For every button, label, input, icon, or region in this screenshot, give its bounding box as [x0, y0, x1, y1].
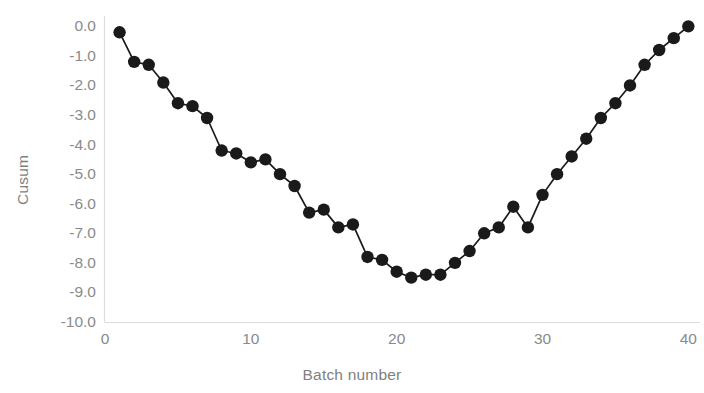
data-point — [113, 26, 125, 38]
data-point — [493, 221, 505, 233]
data-point — [376, 254, 388, 266]
x-tick-label: 30 — [534, 330, 551, 348]
cusum-data-points — [113, 20, 694, 284]
x-axis-title: Batch number — [0, 366, 704, 384]
data-point — [668, 32, 680, 44]
cusum-chart: Cusum 0.0-1.0-2.0-3.0-4.0-5.0-6.0-7.0-8.… — [0, 0, 704, 393]
data-point — [420, 269, 432, 281]
data-point — [580, 133, 592, 145]
data-point — [449, 257, 461, 269]
data-point — [361, 251, 373, 263]
data-point — [128, 56, 140, 68]
data-point — [201, 112, 213, 124]
x-tick-label: 0 — [101, 330, 110, 348]
data-point — [653, 44, 665, 56]
data-point — [565, 150, 577, 162]
data-point — [274, 168, 286, 180]
data-point — [390, 266, 402, 278]
data-point — [405, 271, 417, 283]
data-point — [609, 97, 621, 109]
x-tick-label: 10 — [242, 330, 259, 348]
data-point — [682, 20, 694, 32]
data-point — [172, 97, 184, 109]
axis-lines — [105, 16, 701, 323]
cusum-line — [120, 26, 689, 277]
data-point — [507, 201, 519, 213]
data-point — [303, 206, 315, 218]
data-point — [522, 221, 534, 233]
data-point — [624, 79, 636, 91]
data-point — [143, 59, 155, 71]
data-point — [347, 218, 359, 230]
data-point — [332, 221, 344, 233]
data-point — [434, 269, 446, 281]
data-point — [536, 189, 548, 201]
data-point — [259, 153, 271, 165]
data-point — [230, 147, 242, 159]
data-point — [157, 76, 169, 88]
data-point — [463, 245, 475, 257]
x-tick-label: 40 — [680, 330, 697, 348]
data-point — [551, 168, 563, 180]
data-point — [288, 180, 300, 192]
data-point — [245, 156, 257, 168]
data-point — [318, 203, 330, 215]
data-point — [638, 59, 650, 71]
data-point — [595, 112, 607, 124]
data-point — [186, 100, 198, 112]
x-tick-label: 20 — [388, 330, 405, 348]
data-point — [215, 144, 227, 156]
data-point — [478, 227, 490, 239]
